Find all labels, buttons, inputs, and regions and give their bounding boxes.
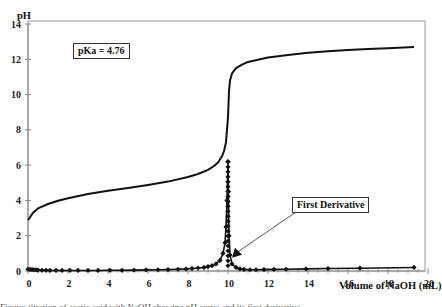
derivative-marker [155, 267, 160, 272]
derivative-marker [225, 165, 230, 170]
derivative-marker [225, 189, 230, 194]
derivative-marker [225, 184, 230, 189]
derivative-marker [220, 251, 225, 256]
arrowhead-icon [232, 248, 242, 258]
x-tick-label: 12 [264, 278, 274, 289]
derivative-marker [201, 265, 206, 270]
y-tick-label: 2 [16, 230, 21, 241]
y-tick-label: 6 [16, 160, 21, 171]
titration-chart: 0246810121402468101214161820 pH Volume o… [0, 0, 442, 300]
x-tick-label: 14 [304, 278, 314, 289]
pka-annotation: pKa = 4.76 [73, 43, 130, 59]
derivative-marker [225, 258, 230, 263]
x-tick-label: 6 [147, 278, 152, 289]
y-tick-label: 8 [16, 124, 21, 135]
y-tick-label: 0 [16, 266, 21, 277]
y-tick-label: 4 [16, 195, 21, 206]
x-tick-label: 0 [27, 278, 32, 289]
annotation-arrow [232, 212, 296, 258]
x-tick-label: 2 [67, 278, 72, 289]
derivative-marker [225, 169, 230, 174]
derivative-marker [75, 268, 80, 273]
derivative-marker [85, 268, 90, 273]
y-tick-label: 10 [11, 89, 21, 100]
derivative-marker [131, 268, 136, 273]
derivative-marker [225, 160, 230, 165]
first-derivative-curve [28, 162, 414, 271]
ph-curve [28, 47, 414, 220]
derivative-marker [225, 194, 230, 199]
derivative-marker [205, 264, 210, 269]
derivative-marker [119, 268, 124, 273]
y-axis-title: pH [17, 10, 31, 21]
first-derivative-annotation: First Derivative [292, 197, 369, 213]
y-tick-label: 12 [11, 54, 21, 65]
derivative-marker [189, 266, 194, 271]
derivative-marker [95, 268, 100, 273]
derivative-marker [325, 266, 330, 271]
x-tick-label: 8 [187, 278, 192, 289]
figure-caption-clipped: Figure: titration of acetic acid with Na… [0, 300, 442, 307]
x-axis-title: Volume of NaOH (mL) [339, 280, 442, 292]
derivative-marker [225, 179, 230, 184]
derivative-marker [195, 265, 200, 270]
derivative-marker [411, 265, 416, 270]
x-tick-label: 4 [107, 278, 112, 289]
derivative-marker [59, 268, 64, 273]
series-layer [25, 47, 416, 273]
x-tick-label: 10 [224, 278, 234, 289]
derivative-marker [225, 174, 230, 179]
